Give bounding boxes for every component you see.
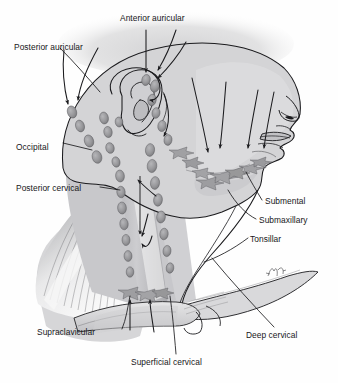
lymph-node-illustration: Anterior auricular Posterior auricular O… [0, 0, 338, 383]
artist-signature [266, 268, 286, 276]
label-deep-cervical: Deep cervical [246, 330, 297, 340]
label-anterior-auricular: Anterior auricular [120, 13, 185, 23]
label-submental: Submental [265, 196, 306, 206]
label-posterior-cervical: Posterior cervical [16, 183, 81, 193]
label-supraclavicular: Supraclavicular [37, 327, 95, 337]
label-submaxillary: Submaxillary [259, 215, 308, 225]
label-superficial-cervical: Superficial cervical [131, 357, 202, 367]
label-occipital: Occipital [16, 142, 49, 152]
label-tonsillar: Tonsillar [250, 234, 281, 244]
label-posterior-auricular: Posterior auricular [14, 42, 83, 52]
